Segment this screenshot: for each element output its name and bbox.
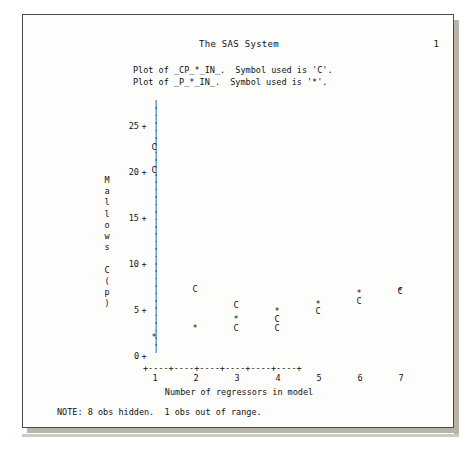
screenshot-root: The SAS System 1 Plot of _CP_*_IN_. Symb…: [0, 0, 476, 458]
y-axis-label-char: a: [101, 186, 113, 197]
y-axis-label-char: [101, 253, 113, 264]
x-tick-1: 1: [150, 373, 160, 383]
y-tick-25: 25+: [123, 121, 149, 131]
data-point-star: *: [314, 300, 322, 308]
y-axis-label-char: M: [101, 175, 113, 186]
y-tick-5-label: 5: [123, 305, 139, 315]
data-point-C: C: [232, 324, 240, 332]
data-point-star: *: [273, 307, 281, 315]
output-note: NOTE: 8 obs hidden. 1 obs out of range.: [57, 407, 262, 417]
x-tick-6: 6: [355, 373, 365, 383]
y-axis-label-char: w: [101, 231, 113, 242]
y-axis-label-char: o: [101, 220, 113, 231]
y-axis-label-char: l: [101, 209, 113, 220]
y-axis-label-char: s: [101, 242, 113, 253]
x-axis-label: Number of regressors in model: [23, 387, 455, 397]
y-tick-20-label: 20: [123, 167, 139, 177]
x-tick-4: 4: [273, 373, 283, 383]
y-tick-10-label: 10: [123, 259, 139, 269]
data-point-C: C: [191, 285, 199, 293]
y-axis-label-char: (: [101, 276, 113, 287]
data-point-star: *: [396, 287, 404, 295]
y-tick-25-label: 25: [123, 121, 139, 131]
x-tick-7: 7: [396, 373, 406, 383]
data-point-C: C: [355, 297, 363, 305]
y-tick-5: 5+: [123, 305, 149, 315]
data-point-C: C: [150, 166, 158, 174]
data-point-C: C: [150, 143, 158, 151]
y-tick-20: 20+: [123, 167, 149, 177]
x-tick-5: 5: [314, 373, 324, 383]
y-axis-label-char: C: [101, 265, 113, 276]
x-tick-2: 2: [191, 373, 201, 383]
data-point-star: *: [355, 289, 363, 297]
data-point-C: C: [232, 301, 240, 309]
data-point-star: *: [191, 324, 199, 332]
y-tick-15-label: 15: [123, 213, 139, 223]
y-tick-0: 0+: [123, 351, 149, 361]
x-tick-3: 3: [232, 373, 242, 383]
y-axis-label-char: p: [101, 287, 113, 298]
y-tick-10: 10+: [123, 259, 149, 269]
plot-area: Mallows C(p) |||||||||||||||||||||||||||…: [23, 15, 455, 429]
y-axis-label-char: l: [101, 197, 113, 208]
y-tick-0-label: 0: [123, 351, 139, 361]
y-axis-line: ||||||||||||||||||||||||||||||||||: [152, 101, 160, 353]
paper-stack-line: [22, 434, 459, 437]
sas-output-page: The SAS System 1 Plot of _CP_*_IN_. Symb…: [22, 14, 454, 428]
data-point-star: *: [150, 333, 158, 341]
y-tick-15: 15+: [123, 213, 149, 223]
y-axis-label-char: ): [101, 298, 113, 309]
data-point-star: *: [232, 315, 240, 323]
x-axis-line: +----+----+----+----+----+----+: [143, 363, 302, 373]
y-axis-label: Mallows C(p): [101, 175, 113, 309]
data-point-C: C: [273, 324, 281, 332]
